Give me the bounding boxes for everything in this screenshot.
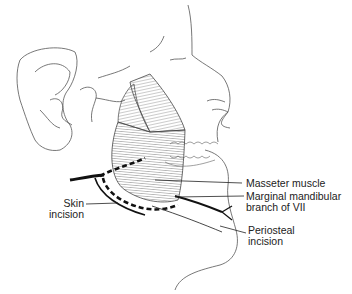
ear bbox=[17, 48, 77, 151]
label-skin-line2: incision bbox=[44, 209, 84, 220]
label-periosteal-line2: incision bbox=[248, 236, 295, 247]
label-marginal-line2: branch of VII bbox=[246, 202, 341, 213]
marginal-mandibular-nerve bbox=[175, 196, 232, 220]
label-skin-incision: Skin incision bbox=[44, 198, 84, 220]
masseter-muscle bbox=[112, 122, 185, 202]
label-periosteal-incision: Periosteal incision bbox=[248, 225, 295, 247]
label-marginal-mandibular: Marginal mandibular branch of VII bbox=[246, 191, 341, 213]
label-masseter-muscle: Masseter muscle bbox=[246, 178, 325, 189]
facial-nerve-trunk bbox=[70, 175, 104, 180]
anatomical-illustration bbox=[0, 0, 352, 294]
